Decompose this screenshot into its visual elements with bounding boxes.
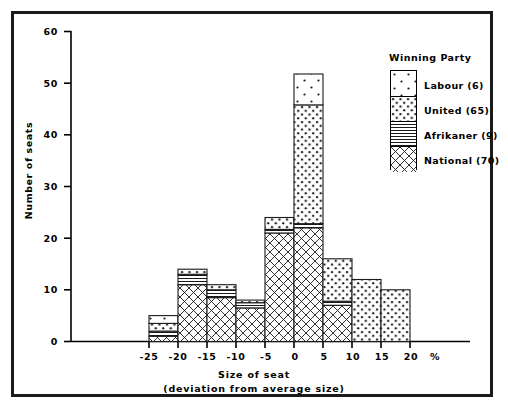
x-axis-unit: % xyxy=(418,351,452,362)
bar-bin--10--5 xyxy=(236,300,265,341)
bar-bin--5-0 xyxy=(265,218,294,342)
y-tick-20: 20 xyxy=(28,233,58,244)
bar-bin-5-10 xyxy=(323,259,352,342)
bar-bin--25--20 xyxy=(149,316,178,342)
legend-swatch-national xyxy=(391,146,416,171)
y-tick-40: 40 xyxy=(28,129,58,140)
y-tick-0: 0 xyxy=(28,336,58,347)
legend-label-national: National (70) xyxy=(424,155,500,166)
bar-bin-15-20 xyxy=(381,290,410,342)
y-tick-50: 50 xyxy=(28,78,58,89)
x-axis-label: Size of seat xyxy=(154,369,354,380)
legend-swatch-column xyxy=(390,70,417,170)
legend-label-labour: Labour (6) xyxy=(424,80,484,91)
x-tick--10: -10 xyxy=(219,351,253,362)
legend-title: Winning Party xyxy=(389,52,471,63)
y-tick-10: 10 xyxy=(28,284,58,295)
bar-bin--15--10 xyxy=(207,285,236,342)
chart-page: Number of seats 0 10 20 30 40 50 60 -25 … xyxy=(0,0,508,414)
y-tick-30: 30 xyxy=(28,181,58,192)
bar-stack-group xyxy=(149,74,410,342)
legend-swatch-labour xyxy=(391,71,416,96)
bar-bin-0-5 xyxy=(294,74,323,342)
legend-swatch-afrikaner xyxy=(391,121,416,146)
bar-bin--20--15 xyxy=(178,269,207,341)
legend-label-united: United (65) xyxy=(424,105,489,116)
bar-bin-10-15 xyxy=(352,280,381,342)
legend-label-afrikaner: Afrikaner (9) xyxy=(424,130,498,141)
x-axis-sublabel: (deviation from average size) xyxy=(124,383,384,394)
legend-swatch-united xyxy=(391,96,416,121)
y-axis-label: Number of seats xyxy=(23,91,34,251)
y-tick-60: 60 xyxy=(28,26,58,37)
